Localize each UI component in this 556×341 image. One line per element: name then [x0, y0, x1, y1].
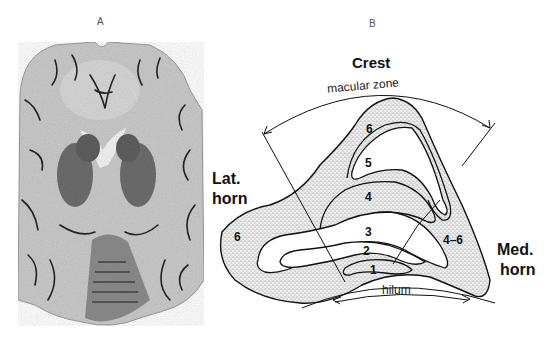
macular-zone-label: macular zone [327, 75, 400, 95]
zone-6-left-label: 6 [234, 230, 241, 244]
zone-4-label: 4 [365, 190, 372, 204]
zone-diagram: Crest macular zone Lat. horn Med. horn h… [0, 0, 556, 341]
lat-horn-label-line2: horn [212, 190, 248, 207]
lat-horn-label-line1: Lat. [212, 170, 240, 187]
med-horn-label-line2: horn [500, 261, 536, 278]
zone-3-label: 3 [365, 225, 372, 239]
crest-label: Crest [352, 54, 390, 71]
zone-2-label: 2 [363, 244, 370, 258]
zone-1-label: 1 [370, 263, 377, 277]
zone-5-label: 5 [365, 156, 372, 170]
med-horn-label-line1: Med. [497, 241, 533, 258]
zone-4-6-label: 4–6 [443, 233, 463, 247]
hilum-label: hilum [382, 283, 411, 297]
zone-6-top-label: 6 [366, 122, 373, 136]
